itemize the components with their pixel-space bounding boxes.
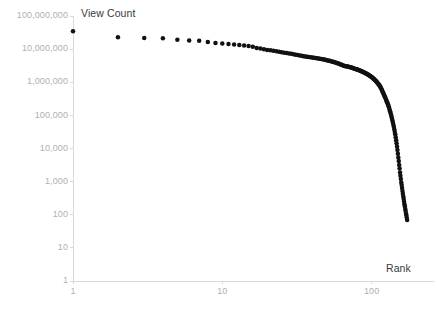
data-point: [251, 44, 256, 49]
data-point: [405, 218, 410, 223]
data-point: [232, 42, 237, 47]
data-point: [397, 159, 402, 164]
y-tick-label: 10: [0, 242, 68, 252]
data-point: [213, 41, 218, 46]
y-tick-label: 10,000,000: [0, 43, 68, 53]
x-tick-label: 10: [197, 286, 247, 296]
y-tick-label: 100,000: [0, 110, 68, 120]
data-point: [246, 44, 251, 49]
y-tick-label: 100: [0, 209, 68, 219]
data-point: [197, 39, 202, 44]
y-tick-label: 1,000: [0, 176, 68, 186]
axis-lines: [73, 16, 434, 281]
data-point: [206, 40, 211, 45]
data-point-group: [71, 29, 410, 222]
y-tick-label: 10,000: [0, 143, 68, 153]
data-point: [71, 29, 76, 34]
y-axis-title: View Count: [81, 7, 136, 19]
data-point: [242, 43, 247, 48]
y-tick-label: 100,000,000: [0, 10, 68, 20]
data-point: [161, 36, 166, 41]
chart-container: View Count Rank 1101001,00010,000100,000…: [0, 0, 438, 313]
data-point: [226, 42, 231, 47]
y-tick-label: 1: [0, 275, 68, 285]
x-axis-title: Rank: [386, 262, 411, 274]
data-point: [142, 36, 147, 41]
data-point: [175, 37, 180, 42]
y-tick-label: 1,000,000: [0, 76, 68, 86]
x-tick-label: 100: [347, 286, 397, 296]
data-point: [187, 38, 192, 43]
data-point: [397, 166, 402, 171]
data-point: [220, 41, 225, 46]
data-point: [116, 35, 121, 40]
data-point: [237, 43, 242, 48]
x-tick-label: 1: [48, 286, 98, 296]
